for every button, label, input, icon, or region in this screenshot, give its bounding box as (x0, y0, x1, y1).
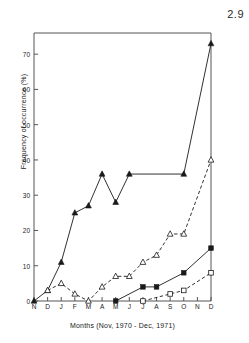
plot-area (0, 0, 249, 343)
series-filled-triangle (31, 40, 214, 303)
data-series-group (31, 40, 214, 303)
figure: 2.9 Frequency of occurrence (%) Months (… (0, 0, 249, 343)
